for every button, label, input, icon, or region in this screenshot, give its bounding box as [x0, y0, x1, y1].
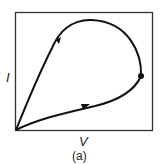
x-axis-label: V [79, 135, 88, 148]
y-axis-label: I [6, 71, 10, 84]
turning-point-dot [138, 73, 144, 79]
upper-branch-curve [16, 20, 141, 130]
figure-caption: (a) [72, 150, 87, 162]
plot-frame [16, 13, 153, 131]
